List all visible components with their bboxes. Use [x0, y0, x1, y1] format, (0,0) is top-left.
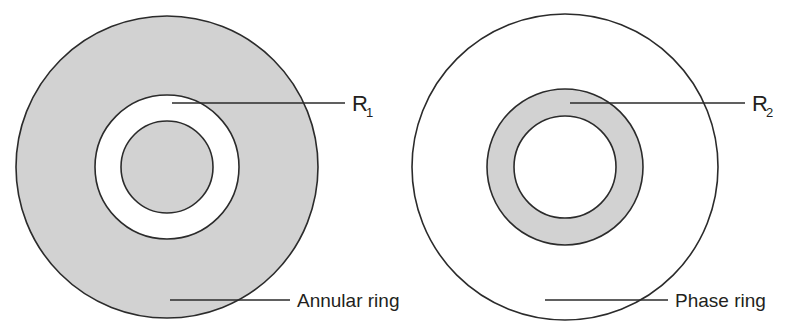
phase-inner-disc	[514, 116, 616, 218]
diagram-svg: R 1 Annular ring R 2 Phase ring	[0, 0, 800, 331]
phase-ring-label: Phase ring	[675, 290, 766, 311]
figure-root: R 1 Annular ring R 2 Phase ring	[0, 0, 800, 331]
r2-subscript: 2	[766, 105, 773, 120]
annular-ring-label: Annular ring	[297, 290, 399, 311]
r1-subscript: 1	[366, 105, 373, 120]
annular-inner-disc	[121, 121, 213, 213]
phase-ring-panel: R 2 Phase ring	[412, 14, 773, 320]
annular-ring-panel: R 1 Annular ring	[16, 16, 399, 318]
